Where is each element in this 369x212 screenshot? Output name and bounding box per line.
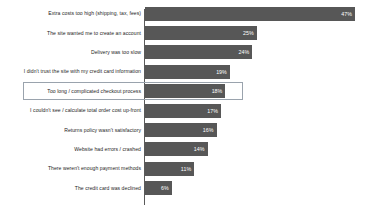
bar[interactable]: 11% — [145, 162, 194, 176]
bar[interactable]: 14% — [145, 142, 208, 156]
category-label: I didn't trust the site with my credit c… — [9, 68, 141, 75]
bar-value-label: 17% — [207, 108, 218, 114]
category-label: There weren't enough payment methods — [9, 165, 141, 172]
category-label: Extra costs too high (shipping, tax, fee… — [9, 10, 141, 17]
table-row[interactable]: The credit card was declined 6% — [0, 179, 369, 198]
bar[interactable]: 16% — [145, 123, 217, 137]
category-label: Website had errors / crashed — [9, 146, 141, 153]
category-label: Delivery was too slow — [9, 49, 141, 56]
bar-wrapper: 47% — [145, 7, 355, 21]
bar-wrapper: 14% — [145, 142, 208, 156]
category-label: Too long / complicated checkout process — [9, 88, 141, 95]
plot-area: Extra costs too high (shipping, tax, fee… — [0, 4, 369, 208]
table-row[interactable]: Returns policy wasn't satisfactory 16% — [0, 120, 369, 139]
bar[interactable]: 19% — [145, 65, 230, 79]
bar-chart: Extra costs too high (shipping, tax, fee… — [0, 0, 369, 212]
bar-wrapper: 16% — [145, 123, 217, 137]
bar-value-label: 18% — [212, 88, 223, 94]
table-row[interactable]: I didn't trust the site with my credit c… — [0, 62, 369, 81]
bar-wrapper: 11% — [145, 162, 194, 176]
bar-value-label: 6% — [161, 185, 169, 191]
bar[interactable]: 17% — [145, 104, 221, 118]
bar[interactable]: 24% — [145, 45, 252, 59]
table-row-highlighted[interactable]: Too long / complicated checkout process … — [0, 82, 369, 101]
category-label: The credit card was declined — [9, 185, 141, 192]
bar-value-label: 47% — [341, 11, 352, 17]
bar-wrapper: 17% — [145, 104, 221, 118]
bar-value-label: 25% — [243, 30, 254, 36]
category-label: Returns policy wasn't satisfactory — [9, 127, 141, 134]
bar-value-label: 19% — [216, 69, 227, 75]
bar-wrapper: 18% — [145, 84, 225, 98]
bar-value-label: 11% — [181, 166, 191, 172]
category-label: The site wanted me to create an account — [9, 30, 141, 37]
bar-value-label: 24% — [238, 49, 249, 55]
bar[interactable]: 18% — [145, 84, 225, 98]
table-row[interactable]: I couldn't see / calculate total order c… — [0, 101, 369, 120]
bar-value-label: 14% — [194, 146, 205, 152]
table-row[interactable]: Delivery was too slow 24% — [0, 43, 369, 62]
table-row[interactable]: The site wanted me to create an account … — [0, 23, 369, 42]
bar[interactable]: 47% — [145, 7, 355, 21]
bar-wrapper: 6% — [145, 181, 172, 195]
bar-wrapper: 24% — [145, 45, 252, 59]
bar-wrapper: 19% — [145, 65, 230, 79]
bar-value-label: 16% — [203, 127, 214, 133]
bar[interactable]: 25% — [145, 26, 257, 40]
table-row[interactable]: Website had errors / crashed 14% — [0, 140, 369, 159]
table-row[interactable]: Extra costs too high (shipping, tax, fee… — [0, 4, 369, 23]
bar-wrapper: 25% — [145, 26, 257, 40]
bar[interactable]: 6% — [145, 181, 172, 195]
category-label: I couldn't see / calculate total order c… — [9, 107, 141, 114]
table-row[interactable]: There weren't enough payment methods 11% — [0, 159, 369, 178]
